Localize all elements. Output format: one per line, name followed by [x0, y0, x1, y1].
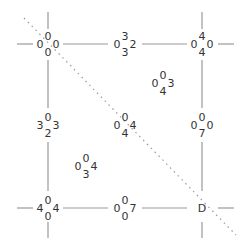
node-top-value: 0	[45, 111, 52, 124]
cell-right-value: 3	[168, 77, 175, 90]
node-left-value: 0	[114, 38, 121, 51]
node-0-2: 4 0 0 4	[191, 30, 214, 59]
node-2-0: 0 4 4 0	[37, 194, 60, 223]
node-right-value: 7	[130, 202, 137, 215]
node-top-value: 0	[45, 194, 52, 207]
cell-top-value: 0	[83, 152, 90, 165]
grid-diagram: 0 0 0 0 3 0 2 3 4 0 0 4 0 3 3 2 0 0 4 4 …	[0, 0, 251, 245]
node-bottom-value: 0	[122, 210, 129, 223]
node-top-value: 3	[122, 30, 129, 43]
node-right-value: 0	[207, 38, 214, 51]
node-left-value: 3	[37, 119, 44, 132]
node-bottom-value: 4	[199, 46, 206, 59]
node-left-value: 0	[37, 38, 44, 51]
node-bottom-value: 4	[122, 127, 129, 140]
node-right-value: 4	[130, 119, 137, 132]
node-right-value: 0	[207, 119, 214, 132]
node-top-value: 4	[199, 30, 206, 43]
cell-left-value: 0	[152, 77, 159, 90]
cell-bottom-value: 4	[160, 85, 167, 98]
cell-left-value: 0	[75, 160, 82, 173]
node-right-value: 3	[53, 119, 60, 132]
cell-upper-right: 0 0 3 4	[152, 69, 175, 98]
node-2-2-destination: D	[198, 202, 206, 215]
node-left-value: 0	[114, 202, 121, 215]
node-0-1: 3 0 2 3	[114, 30, 137, 59]
node-top-value: 0	[122, 194, 129, 207]
destination-label: D	[198, 202, 206, 215]
node-left-value: 0	[114, 119, 121, 132]
cell-bottom-value: 3	[83, 168, 90, 181]
node-left-value: 0	[191, 38, 198, 51]
node-bottom-value: 2	[45, 127, 52, 140]
node-top-value: 0	[199, 111, 206, 124]
node-right-value: 0	[53, 38, 60, 51]
node-right-value: 2	[130, 38, 137, 51]
node-bottom-value: 7	[199, 127, 206, 140]
node-left-value: 0	[191, 119, 198, 132]
cell-lower-left: 0 0 4 3	[75, 152, 98, 181]
node-bottom-value: 0	[45, 46, 52, 59]
cell-right-value: 4	[91, 160, 98, 173]
node-right-value: 4	[53, 202, 60, 215]
node-top-value: 0	[45, 30, 52, 43]
node-bottom-value: 3	[122, 46, 129, 59]
node-2-1: 0 0 7 0	[114, 194, 137, 223]
node-left-value: 4	[37, 202, 44, 215]
node-1-2: 0 0 0 7	[191, 111, 214, 140]
node-top-value: 0	[122, 111, 129, 124]
node-1-0: 0 3 3 2	[37, 111, 60, 140]
node-bottom-value: 0	[45, 210, 52, 223]
node-1-1: 0 0 4 4	[114, 111, 137, 140]
cell-top-value: 0	[160, 69, 167, 82]
